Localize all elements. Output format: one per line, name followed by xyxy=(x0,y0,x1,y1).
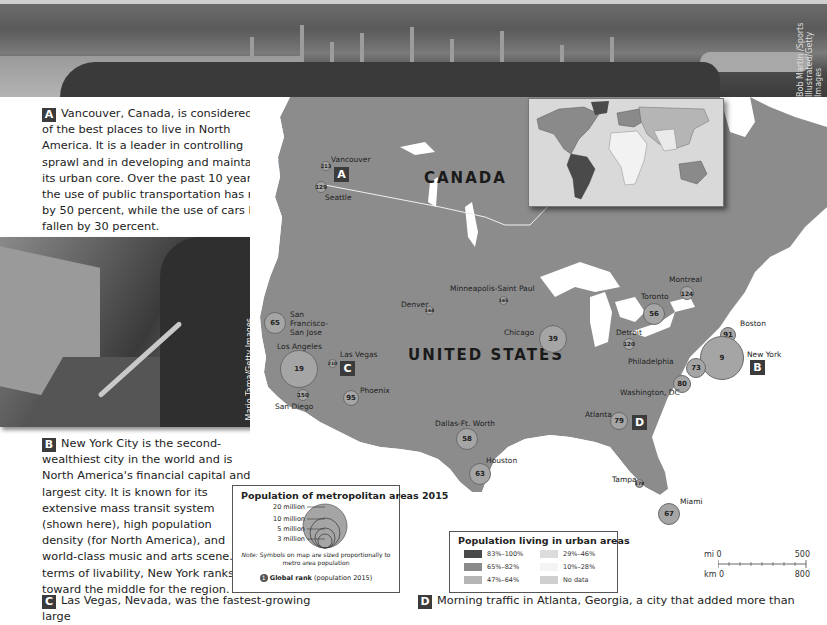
city-label-las-vegas: Las Vegas xyxy=(340,350,378,359)
section-c-text: CLas Vegas, Nevada, was the fastest-grow… xyxy=(42,593,342,625)
legend-item-47-64: 47%–64% xyxy=(464,576,519,584)
new-york-subway-photo: Mario Tama/Getty Images xyxy=(0,237,257,427)
city-label-boston: Boston xyxy=(740,319,766,328)
city-marker-las-vegas[interactable]: 210 xyxy=(328,359,337,368)
city-label-montreal: Montreal xyxy=(669,275,702,284)
country-label-canada: CANADA xyxy=(424,169,507,187)
city-label-los-angeles: Los Angeles xyxy=(277,342,322,351)
legend-urban-population: Population living in urban areas 83%–100… xyxy=(449,531,618,593)
city-marker-detroit[interactable]: 120 xyxy=(623,338,635,350)
legend-metro-population: Population of metropolitan areas 2015 20… xyxy=(232,485,400,593)
map-marker-d[interactable]: D xyxy=(632,415,647,430)
city-label-denver: Denver xyxy=(401,300,428,309)
legend-item-83-100: 83%–100% xyxy=(464,550,523,558)
scale-bar: mi 0 500 km 0 800 xyxy=(700,550,810,586)
city-label-atlanta: Atlanta xyxy=(585,410,612,419)
city-marker-chicago[interactable]: 39 xyxy=(539,325,567,353)
city-marker-miami[interactable]: 67 xyxy=(658,503,680,525)
city-marker-san-francisco[interactable]: 65 xyxy=(264,312,286,334)
city-label-phoenix: Phoenix xyxy=(360,386,390,395)
legend-size-10m: 10 million xyxy=(273,515,305,523)
city-label-chicago: Chicago xyxy=(504,328,534,337)
city-marker-atlanta[interactable]: 79 xyxy=(610,412,628,430)
city-marker-seattle[interactable]: 129 xyxy=(315,181,327,193)
city-label-vancouver: Vancouver xyxy=(331,155,371,164)
legend-item-29-46: 29%–46% xyxy=(540,550,595,558)
city-marker-toronto[interactable]: 56 xyxy=(643,303,665,325)
city-label-san-diego: San Diego xyxy=(275,402,313,411)
section-d-tag: D xyxy=(418,595,432,609)
city-label-washington-dc: Washington, DC xyxy=(620,388,680,397)
section-b-text: BNew York City is the second-wealthiest … xyxy=(42,436,252,598)
map-marker-a[interactable]: A xyxy=(334,167,349,182)
legend-size-5m: 5 million xyxy=(277,525,305,533)
section-c-tag: C xyxy=(42,595,56,609)
city-marker-new-york[interactable]: 9 xyxy=(700,336,744,380)
legend-size-20m: 20 million xyxy=(273,503,305,511)
city-label-toronto: Toronto xyxy=(641,292,669,301)
city-marker-dallas[interactable]: 58 xyxy=(456,428,478,450)
city-marker-phoenix[interactable]: 95 xyxy=(343,390,359,406)
city-marker-minneapolis[interactable]: 165 xyxy=(499,296,508,305)
city-label-san-francisco: San Francisco-San Jose xyxy=(290,310,340,337)
section-d-text: DMorning traffic in Atlanta, Georgia, a … xyxy=(418,593,818,609)
photo-credit: Bob Martin /Sports Illustrated/Getty Ima… xyxy=(796,6,823,97)
legend-title: Population living in urban areas xyxy=(458,535,630,546)
legend-size-3m: 3 million xyxy=(277,535,305,543)
country-label-united-states: UNITED STATES xyxy=(408,346,564,364)
map-marker-c[interactable]: C xyxy=(340,361,355,376)
world-inset-map xyxy=(528,98,724,207)
legend-item-65-82: 65%–82% xyxy=(464,563,519,571)
city-marker-vancouver[interactable]: 213 xyxy=(321,161,331,171)
legend-item-no-data: No data xyxy=(540,576,589,584)
city-marker-san-diego[interactable]: 150 xyxy=(297,389,309,401)
rank-symbol-icon: 1 xyxy=(260,574,268,582)
section-a-text: AVancouver, Canada, is considered one of… xyxy=(42,106,282,236)
city-marker-montreal[interactable]: 124 xyxy=(680,286,694,300)
city-label-minneapolis: Minneapolis-Saint Paul xyxy=(450,284,535,293)
legend-item-10-28: 10%–28% xyxy=(540,563,595,571)
city-label-new-york: New York xyxy=(747,350,781,359)
city-label-houston: Houston xyxy=(486,456,517,465)
section-a-tag: A xyxy=(42,108,56,122)
city-label-dallas: Dallas-Ft. Worth xyxy=(435,419,495,428)
vancouver-skyline-photo: Bob Martin /Sports Illustrated/Getty Ima… xyxy=(0,0,827,97)
legend-global-rank: 1 Global rank (population 2015) xyxy=(233,574,399,582)
section-b-tag: B xyxy=(42,438,56,452)
city-marker-houston[interactable]: 63 xyxy=(469,463,491,485)
city-label-miami: Miami xyxy=(680,497,703,506)
legend-note: Note: Symbols on map are sized proportio… xyxy=(237,551,395,566)
city-marker-philadelphia[interactable]: 73 xyxy=(686,358,706,378)
city-label-philadelphia: Philadelphia xyxy=(628,357,674,366)
city-label-seattle: Seattle xyxy=(325,193,352,202)
city-label-tampa: Tampa xyxy=(612,475,637,484)
map-marker-b[interactable]: B xyxy=(750,360,765,375)
city-marker-los-angeles[interactable]: 19 xyxy=(280,350,318,388)
city-label-detroit: Detroit xyxy=(616,328,642,337)
